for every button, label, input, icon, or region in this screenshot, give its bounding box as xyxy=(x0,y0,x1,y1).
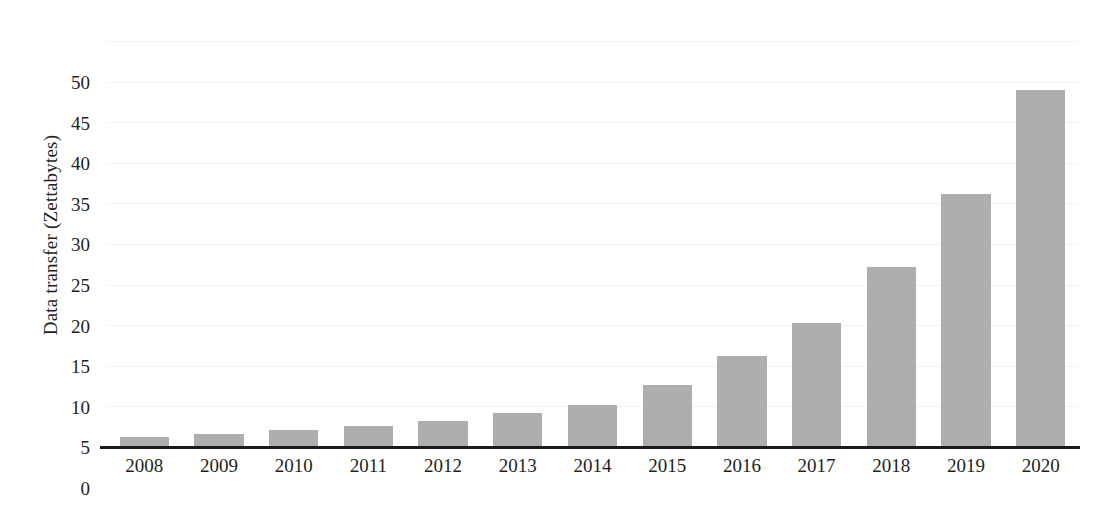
x-tick-label: 2016 xyxy=(723,455,761,478)
plot-area xyxy=(107,41,1078,447)
gridline xyxy=(107,41,1078,42)
x-tick-label: 2020 xyxy=(1022,455,1060,478)
gridline xyxy=(107,325,1078,326)
gridline xyxy=(107,244,1078,245)
y-tick-label: 45 xyxy=(71,113,90,132)
x-tick-label: 2019 xyxy=(947,455,985,478)
y-tick-label: 50 xyxy=(71,73,90,92)
x-axis-tick-labels: 2008200920102011201220132014201520162017… xyxy=(107,455,1078,485)
y-tick-label: 15 xyxy=(71,357,90,376)
gridline xyxy=(107,203,1078,204)
x-tick-label: 2012 xyxy=(424,455,462,478)
x-tick-label: 2013 xyxy=(499,455,537,478)
y-tick-label: 40 xyxy=(71,154,90,173)
bar xyxy=(867,267,916,447)
gridline xyxy=(107,285,1078,286)
x-tick-label: 2010 xyxy=(275,455,313,478)
bar xyxy=(717,356,766,447)
bar xyxy=(418,421,467,447)
bar xyxy=(344,426,393,447)
y-axis-tick-labels: 05101520253035404550 xyxy=(0,41,100,447)
y-tick-label: 10 xyxy=(71,397,90,416)
x-tick-label: 2015 xyxy=(648,455,686,478)
x-tick-label: 2017 xyxy=(798,455,836,478)
gridline xyxy=(107,163,1078,164)
bar xyxy=(568,405,617,447)
x-axis-line xyxy=(100,446,1080,449)
bar-chart: Data transfer (Zettabytes) 0510152025303… xyxy=(0,0,1095,505)
y-tick-label: 5 xyxy=(81,438,91,457)
gridline xyxy=(107,82,1078,83)
y-tick-label: 30 xyxy=(71,235,90,254)
bar xyxy=(493,413,542,447)
bar xyxy=(643,385,692,447)
bar xyxy=(1016,90,1065,447)
y-tick-label: 20 xyxy=(71,316,90,335)
x-tick-label: 2014 xyxy=(574,455,612,478)
x-tick-label: 2009 xyxy=(200,455,238,478)
bar xyxy=(792,323,841,447)
x-tick-label: 2011 xyxy=(350,455,387,478)
y-tick-label: 35 xyxy=(71,194,90,213)
x-tick-label: 2008 xyxy=(125,455,163,478)
y-tick-label: 25 xyxy=(71,276,90,295)
y-tick-label: 0 xyxy=(81,479,91,498)
bar xyxy=(941,194,990,447)
bar xyxy=(269,430,318,447)
x-tick-label: 2018 xyxy=(872,455,910,478)
gridline xyxy=(107,366,1078,367)
gridline xyxy=(107,122,1078,123)
